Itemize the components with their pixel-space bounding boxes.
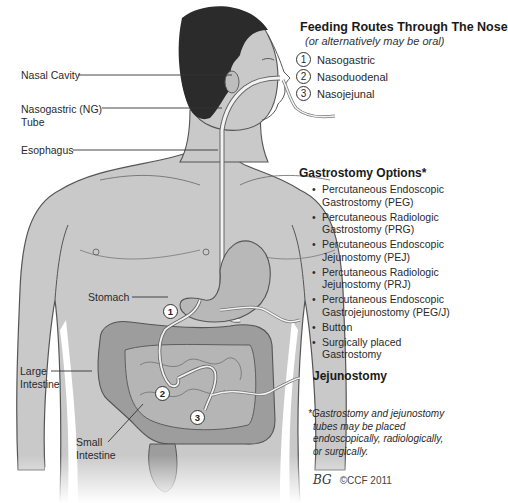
route-number: 2: [296, 69, 311, 84]
label-ng-tube-line2: Tube: [21, 116, 45, 129]
route-label: Nasogastric: [317, 54, 375, 66]
option-prg: •Percutaneous RadiologicGastrostomy (PRG…: [312, 211, 462, 236]
marker-3-nasojejunal: 3: [190, 410, 205, 425]
route-label: Nasojejunal: [317, 88, 374, 100]
route-number: 1: [296, 52, 311, 67]
option-button: •Button: [312, 321, 462, 334]
label-small-intestine-line1: Small: [76, 436, 102, 449]
label-ng-tube-line1: Nasogastric (NG): [21, 103, 102, 116]
title-jejunostomy: Jejunostomy: [313, 369, 387, 383]
title-feeding-routes: Feeding Routes Through The Nose: [300, 20, 508, 34]
option-pej: •Percutaneous EndoscopicJejunostomy (PEJ…: [312, 238, 462, 263]
title-gastrostomy-options: Gastrostomy Options*: [299, 166, 426, 180]
route-label: Nasoduodenal: [317, 71, 388, 83]
marker-2-nasoduodenal: 2: [155, 386, 170, 401]
option-pegj: •Percutaneous EndoscopicGastrojejunostom…: [312, 293, 462, 318]
marker-1-nasogastric: 1: [163, 304, 178, 319]
option-peg: •Percutaneous EndoscopicGastrostomy (PEG…: [312, 183, 462, 208]
artist-signature: BG: [313, 473, 332, 487]
copyright: ©CCF 2011: [340, 475, 392, 486]
route-item-nasoduodenal: 2 Nasoduodenal: [296, 69, 388, 84]
label-nasal-cavity: Nasal Cavity: [21, 69, 80, 82]
route-item-nasojejunal: 3 Nasojejunal: [296, 86, 374, 101]
subtitle-oral: (or alternatively may be oral): [305, 35, 444, 47]
option-prj: •Percutaneous RadiologicJejunostomy (PRJ…: [312, 266, 462, 291]
label-stomach: Stomach: [88, 291, 129, 304]
label-small-intestine-line2: Intestine: [76, 449, 116, 462]
route-item-nasogastric: 1 Nasogastric: [296, 52, 375, 67]
label-esophagus: Esophagus: [21, 144, 74, 157]
option-surgical-gastrostomy: •Surgically placed Gastrostomy: [312, 336, 462, 361]
label-large-intestine-line2: Intestine: [20, 378, 60, 391]
gastrostomy-options-list: •Percutaneous EndoscopicGastrostomy (PEG…: [312, 183, 462, 363]
route-number: 3: [296, 86, 311, 101]
footnote: *Gastrostomy and jejunostomy tubes may b…: [308, 408, 468, 458]
credit: BG ©CCF 2011: [313, 473, 392, 487]
label-large-intestine-line1: Large: [20, 365, 47, 378]
